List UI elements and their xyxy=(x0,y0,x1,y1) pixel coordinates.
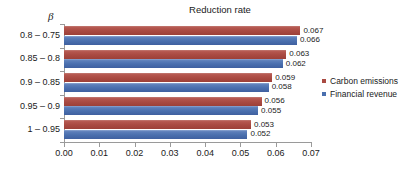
legend-swatch-icon xyxy=(322,79,326,83)
bar[interactable] xyxy=(64,26,300,35)
bar-fill xyxy=(64,106,258,115)
legend-item-label: Carbon emissions xyxy=(330,76,398,86)
x-axis-tick-labels: 0.000.010.020.030.040.050.060.07 xyxy=(64,148,312,162)
x-axis-tick-label: 0.05 xyxy=(220,148,260,158)
bar-value-label: 0.058 xyxy=(272,82,292,91)
bar-value-label: 0.056 xyxy=(265,96,285,105)
bar-value-label: 0.059 xyxy=(275,73,295,82)
x-axis-tick xyxy=(205,143,206,147)
x-axis-tick xyxy=(276,143,277,147)
plot-area: 0.0670.0660.0630.0620.0590.0580.0560.055… xyxy=(64,24,311,142)
x-axis-tick xyxy=(170,143,171,147)
x-axis-tick xyxy=(64,143,65,147)
bar-fill xyxy=(64,97,262,106)
y-axis-tick-label: 0.8 – 0.75 xyxy=(2,30,60,40)
x-axis-tick-label: 0.02 xyxy=(115,148,155,158)
bar-value-label: 0.062 xyxy=(286,59,306,68)
chart-title: Reduction rate xyxy=(130,4,310,15)
bar[interactable] xyxy=(64,83,269,92)
bar-fill xyxy=(64,50,286,59)
y-axis-tick-labels: 0.8 – 0.750.85 – 0.80.9 – 0.850.95 – 0.9… xyxy=(0,24,60,142)
x-axis-tick xyxy=(99,143,100,147)
bar-group: 0.0560.055 xyxy=(64,95,311,119)
x-axis-tick-label: 0.06 xyxy=(256,148,296,158)
bar[interactable] xyxy=(64,73,272,82)
y-axis-tick-label: 0.9 – 0.85 xyxy=(2,77,60,87)
bar-fill xyxy=(64,130,247,139)
bar-value-label: 0.053 xyxy=(254,120,274,129)
bar[interactable] xyxy=(64,106,258,115)
legend-swatch-icon xyxy=(322,92,326,96)
x-axis-tick-label: 0.03 xyxy=(150,148,190,158)
bar-fill xyxy=(64,73,272,82)
bar-fill xyxy=(64,83,269,92)
bar-value-label: 0.052 xyxy=(250,129,270,138)
legend-item-label: Financial revenue xyxy=(330,89,397,99)
bar-fill xyxy=(64,59,283,68)
bar[interactable] xyxy=(64,59,283,68)
bar-group: 0.0630.062 xyxy=(64,48,311,72)
x-axis-tick xyxy=(135,143,136,147)
x-axis-tick-label: 0.04 xyxy=(185,148,225,158)
y-axis-tick-label: 0.95 – 0.9 xyxy=(2,101,60,111)
bar-group: 0.0530.052 xyxy=(64,118,311,142)
x-axis-tick-label: 0.00 xyxy=(44,148,84,158)
bar[interactable] xyxy=(64,97,262,106)
bar-group: 0.0670.066 xyxy=(64,24,311,48)
chart-legend: Carbon emissions Financial revenue xyxy=(322,74,417,100)
legend-item-financial-revenue[interactable]: Financial revenue xyxy=(322,87,417,100)
bar[interactable] xyxy=(64,120,251,129)
reduction-rate-bar-chart: Reduction rate β 0.8 – 0.750.85 – 0.80.9… xyxy=(0,0,419,170)
y-axis-tick-label: 1 – 0.95 xyxy=(2,124,60,134)
bar-fill xyxy=(64,120,251,129)
bar[interactable] xyxy=(64,36,297,45)
bar-fill xyxy=(64,26,300,35)
legend-item-carbon-emissions[interactable]: Carbon emissions xyxy=(322,74,417,87)
y-axis-title: β xyxy=(48,10,53,22)
bar-fill xyxy=(64,36,297,45)
bar-value-label: 0.067 xyxy=(303,26,323,35)
bar-value-label: 0.055 xyxy=(261,106,281,115)
x-axis-tick xyxy=(240,143,241,147)
bar-value-label: 0.063 xyxy=(289,49,309,58)
y-axis-tick-label: 0.85 – 0.8 xyxy=(2,53,60,63)
bar[interactable] xyxy=(64,50,286,59)
x-axis-tick-label: 0.07 xyxy=(291,148,331,158)
bar-group: 0.0590.058 xyxy=(64,71,311,95)
bar[interactable] xyxy=(64,130,247,139)
x-axis-tick xyxy=(311,143,312,147)
bar-value-label: 0.066 xyxy=(300,35,320,44)
x-axis-tick-label: 0.01 xyxy=(79,148,119,158)
